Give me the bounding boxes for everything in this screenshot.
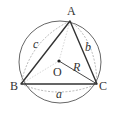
circumscribed-triangle-diagram: A B C O R a b c: [0, 0, 117, 114]
vertex-label-c: C: [99, 79, 107, 93]
center-point-o: [57, 59, 60, 62]
side-label-c: c: [33, 37, 39, 51]
vertex-label-b: B: [10, 79, 18, 93]
vertex-label-a: A: [67, 4, 76, 18]
center-label-o: O: [53, 65, 62, 79]
radius-label-r: R: [72, 60, 81, 74]
side-label-a: a: [56, 87, 62, 101]
side-label-b: b: [85, 40, 91, 54]
